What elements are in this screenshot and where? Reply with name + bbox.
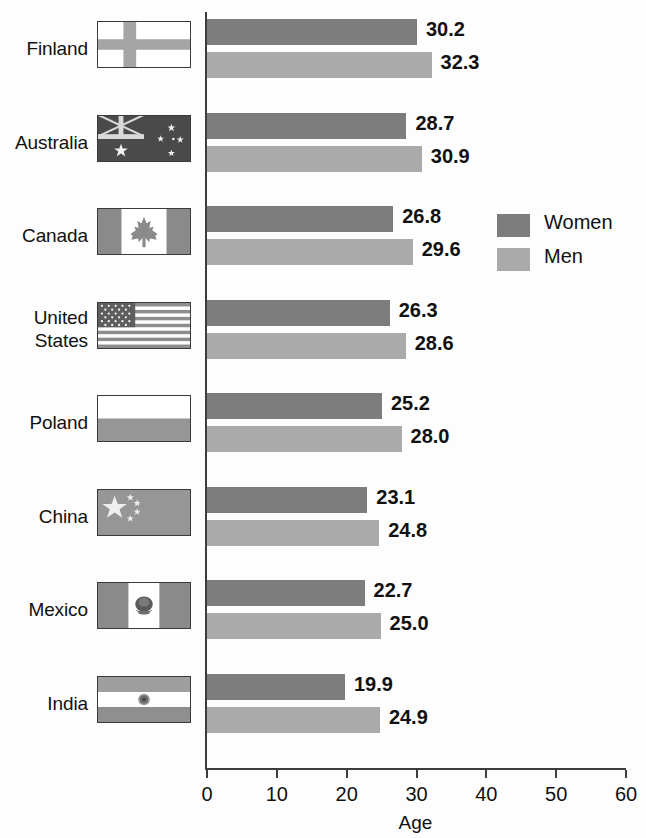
chart-row: Poland 25.228.0 <box>0 386 646 479</box>
bar-men <box>206 613 381 639</box>
bar-value-men: 25.0 <box>390 612 429 635</box>
bar-men <box>206 707 380 733</box>
x-axis-line <box>205 768 626 770</box>
country-label: Mexico <box>0 598 88 621</box>
legend-item: Women <box>497 211 637 245</box>
bar-women <box>206 19 417 45</box>
bar-value-women: 26.8 <box>402 205 441 228</box>
country-label: Finland <box>0 37 88 60</box>
x-axis-tick <box>555 770 557 778</box>
country-label-line: Finland <box>0 37 88 60</box>
country-label-line: China <box>0 505 88 528</box>
bar-value-men: 28.0 <box>411 425 450 448</box>
bar-women <box>206 393 382 419</box>
bar-men <box>206 520 379 546</box>
legend-label: Women <box>544 211 613 234</box>
bar-women <box>206 674 345 700</box>
country-label: India <box>0 692 88 715</box>
country-label: Australia <box>0 131 88 154</box>
country-label-line: United <box>0 306 88 329</box>
legend-label: Men <box>544 245 583 268</box>
bar-value-women: 22.7 <box>374 579 413 602</box>
bar-value-men: 28.6 <box>415 332 454 355</box>
x-axis-tick <box>346 770 348 778</box>
x-axis-tick <box>276 770 278 778</box>
country-label-line: Mexico <box>0 598 88 621</box>
chart-row: Mexico 22.725.0 <box>0 573 646 666</box>
mexico-flag <box>97 582 191 629</box>
bar-value-men: 32.3 <box>441 51 480 74</box>
x-axis-tick-label: 0 <box>187 783 227 806</box>
legend-swatch <box>497 248 530 271</box>
bar-men <box>206 239 413 265</box>
legend: WomenMen <box>497 211 637 279</box>
chart-row: Australia 28.730.9 <box>0 106 646 199</box>
chart-row: UnitedStates 26.328.6 <box>0 293 646 386</box>
x-axis-tick-label: 20 <box>327 783 367 806</box>
country-label-line: Australia <box>0 131 88 154</box>
bar-men <box>206 426 402 452</box>
x-axis-tick-label: 40 <box>466 783 506 806</box>
country-label-line: India <box>0 692 88 715</box>
bar-value-women: 23.1 <box>376 486 415 509</box>
x-axis-title: Age <box>205 812 626 834</box>
bar-value-men: 24.9 <box>389 706 428 729</box>
x-axis-tick-label: 30 <box>397 783 437 806</box>
bar-value-men: 24.8 <box>388 519 427 542</box>
country-label: UnitedStates <box>0 306 88 352</box>
country-label-line: Canada <box>0 224 88 247</box>
legend-item: Men <box>497 245 637 279</box>
chart-row: India 19.924.9 <box>0 667 646 760</box>
country-label-line: Poland <box>0 411 88 434</box>
australia-flag <box>97 115 191 162</box>
china-flag <box>97 489 191 536</box>
bar-women <box>206 580 365 606</box>
bar-women <box>206 300 390 326</box>
canada-flag <box>97 208 191 255</box>
bar-value-women: 28.7 <box>415 112 454 135</box>
country-label: Poland <box>0 411 88 434</box>
x-axis-tick-label: 10 <box>257 783 297 806</box>
chart-row: China 23.124.8 <box>0 480 646 573</box>
x-axis-tick-label: 60 <box>606 783 646 806</box>
bar-men <box>206 333 406 359</box>
bar-value-men: 30.9 <box>431 145 470 168</box>
x-axis-tick <box>416 770 418 778</box>
bar-men <box>206 146 422 172</box>
country-label-line: States <box>0 329 88 352</box>
country-label: Canada <box>0 224 88 247</box>
finland-flag <box>97 21 191 68</box>
bar-value-men: 29.6 <box>422 238 461 261</box>
poland-flag <box>97 395 191 442</box>
x-axis-tick-label: 50 <box>536 783 576 806</box>
bar-women <box>206 206 393 232</box>
united-states-flag <box>97 302 191 349</box>
bar-value-women: 25.2 <box>391 392 430 415</box>
india-flag <box>97 676 191 723</box>
bar-value-women: 19.9 <box>354 673 393 696</box>
bar-women <box>206 487 367 513</box>
x-axis-tick <box>206 770 208 778</box>
legend-swatch <box>497 214 530 237</box>
horizontal-bar-chart: Finland 30.232.3Australia 28.730.9Canada… <box>0 0 646 838</box>
bar-men <box>206 52 432 78</box>
x-axis-tick <box>485 770 487 778</box>
bar-value-women: 26.3 <box>399 299 438 322</box>
x-axis-tick <box>625 770 627 778</box>
bar-women <box>206 113 406 139</box>
bar-value-women: 30.2 <box>426 18 465 41</box>
country-label: China <box>0 505 88 528</box>
chart-row: Finland 30.232.3 <box>0 12 646 105</box>
